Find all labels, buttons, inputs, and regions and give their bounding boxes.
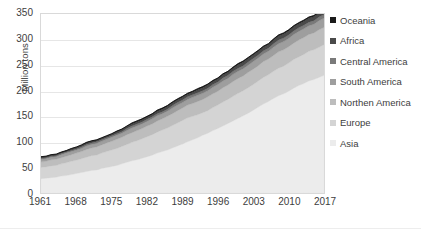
x-axis-tick-1975: 1975 bbox=[91, 196, 131, 208]
legend-swatch-icon bbox=[330, 79, 336, 85]
x-axis-tick-labels: 196119681975198219891996200320102017 bbox=[0, 196, 421, 216]
y-axis-tick-300: 300 bbox=[16, 34, 33, 44]
legend-swatch-icon bbox=[330, 120, 336, 126]
legend-item-northen-america[interactable]: Northen America bbox=[330, 92, 421, 113]
x-axis-tick-2003: 2003 bbox=[234, 196, 274, 208]
legend-item-asia[interactable]: Asia bbox=[330, 133, 421, 154]
legend-item-africa[interactable]: Africa bbox=[330, 31, 421, 52]
legend-item-central-america[interactable]: Central America bbox=[330, 51, 421, 72]
page-divider bbox=[0, 228, 421, 229]
legend-item-label: Oceania bbox=[340, 15, 375, 26]
x-axis-tick-1982: 1982 bbox=[127, 196, 167, 208]
plot-series-svg bbox=[41, 14, 324, 193]
x-axis-tick-1989: 1989 bbox=[163, 196, 203, 208]
x-axis-tick-1996: 1996 bbox=[198, 196, 238, 208]
legend-item-label: South America bbox=[340, 76, 402, 87]
legend-item-label: Asia bbox=[340, 138, 358, 149]
legend-item-europe[interactable]: Europe bbox=[330, 113, 421, 134]
y-axis-tick-350: 350 bbox=[16, 8, 33, 18]
legend-item-label: Africa bbox=[340, 35, 364, 46]
legend-swatch-icon bbox=[330, 99, 336, 105]
legend-item-south-america[interactable]: South America bbox=[330, 72, 421, 93]
y-axis-tick-200: 200 bbox=[16, 86, 33, 96]
y-axis-tick-100: 100 bbox=[16, 137, 33, 147]
legend-swatch-icon bbox=[330, 140, 336, 146]
y-axis-tick-250: 250 bbox=[16, 60, 33, 70]
stacked-area-chart: Million tons 350300250200150100500 19611… bbox=[0, 0, 421, 234]
legend-item-label: Northen America bbox=[340, 97, 411, 108]
y-axis-tick-50: 50 bbox=[22, 163, 33, 173]
plot-area bbox=[40, 13, 325, 194]
legend-swatch-icon bbox=[330, 58, 336, 64]
legend: OceaniaAfricaCentral AmericaSouth Americ… bbox=[330, 10, 421, 154]
x-axis-tick-1968: 1968 bbox=[56, 196, 96, 208]
legend-swatch-icon bbox=[330, 17, 336, 23]
legend-item-label: Europe bbox=[340, 117, 371, 128]
legend-swatch-icon bbox=[330, 38, 336, 44]
y-axis-tick-150: 150 bbox=[16, 111, 33, 121]
x-axis-tick-2017: 2017 bbox=[305, 196, 345, 208]
legend-item-oceania[interactable]: Oceania bbox=[330, 10, 421, 31]
legend-item-label: Central America bbox=[340, 56, 408, 67]
x-axis-tick-1961: 1961 bbox=[20, 196, 60, 208]
x-axis-tick-2010: 2010 bbox=[269, 196, 309, 208]
